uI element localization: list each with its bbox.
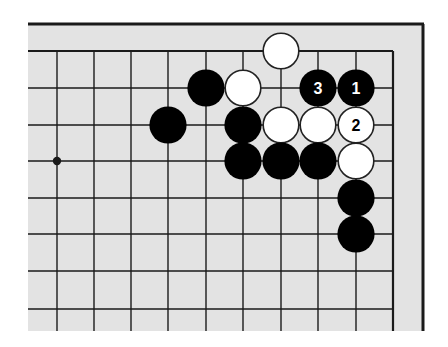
black-stone-icon <box>149 106 186 143</box>
white-stone-icon <box>263 107 299 143</box>
black-stone-move-3: 3 <box>299 69 336 106</box>
black-stone-icon <box>337 215 374 252</box>
black-stone-icon <box>337 179 374 216</box>
black-stone <box>149 106 186 143</box>
black-stone-move-1: 1 <box>337 69 374 106</box>
black-stone <box>262 142 299 179</box>
white-stone <box>338 143 374 179</box>
black-stone-icon <box>224 106 261 143</box>
white-stone <box>225 70 261 106</box>
black-stone-icon <box>299 142 336 179</box>
white-stone-icon <box>300 107 336 143</box>
black-stone <box>337 215 374 252</box>
move-number-label: 3 <box>314 80 323 97</box>
white-stone <box>300 107 336 143</box>
white-stone-icon <box>263 33 299 69</box>
black-stone-icon <box>224 142 261 179</box>
black-stone-icon <box>262 142 299 179</box>
black-stone <box>224 142 261 179</box>
move-number-label: 1 <box>352 80 361 97</box>
black-stone <box>337 179 374 216</box>
black-stone <box>187 69 224 106</box>
white-stone <box>263 33 299 69</box>
white-stone <box>263 107 299 143</box>
black-stone <box>299 142 336 179</box>
move-number-label: 2 <box>352 117 361 134</box>
white-stone-icon <box>338 143 374 179</box>
white-stone-icon <box>225 70 261 106</box>
black-stone-icon <box>187 69 224 106</box>
white-stone-move-2: 2 <box>338 107 374 143</box>
star-point-icon <box>53 157 61 165</box>
go-board-diagram: 312 <box>0 0 448 347</box>
black-stone <box>224 106 261 143</box>
star-points <box>53 157 61 165</box>
